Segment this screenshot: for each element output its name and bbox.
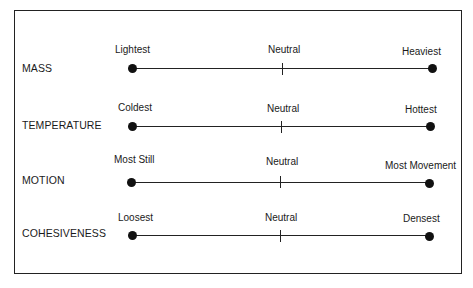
scale-line bbox=[133, 235, 433, 236]
left-end-label: Most Still bbox=[114, 154, 155, 165]
left-end-label: Coldest bbox=[118, 102, 152, 113]
right-endpoint-dot bbox=[425, 232, 434, 241]
scale-label: TEMPERATURE bbox=[22, 119, 102, 131]
right-endpoint-dot bbox=[428, 64, 437, 73]
left-endpoint-dot bbox=[128, 231, 137, 240]
scale-line bbox=[133, 126, 433, 127]
left-end-label: Loosest bbox=[118, 212, 153, 223]
left-endpoint-dot bbox=[128, 64, 137, 73]
neutral-tick bbox=[280, 230, 281, 242]
right-end-label: Hottest bbox=[405, 104, 437, 115]
scale-label: MASS bbox=[22, 62, 52, 74]
middle-label: Neutral bbox=[266, 156, 298, 167]
right-end-label: Heaviest bbox=[402, 46, 441, 57]
scale-label: COHESIVENESS bbox=[22, 227, 106, 239]
left-end-label: Lightest bbox=[115, 44, 150, 55]
right-endpoint-dot bbox=[425, 179, 434, 188]
neutral-tick bbox=[280, 176, 281, 188]
neutral-tick bbox=[282, 63, 283, 75]
scale-line bbox=[133, 68, 433, 69]
middle-label: Neutral bbox=[265, 212, 297, 223]
right-endpoint-dot bbox=[426, 122, 435, 131]
middle-label: Neutral bbox=[268, 44, 300, 55]
scale-label: MOTION bbox=[22, 174, 65, 186]
neutral-tick bbox=[281, 121, 282, 133]
right-end-label: Most Movement bbox=[385, 160, 456, 171]
scale-line bbox=[133, 182, 433, 183]
middle-label: Neutral bbox=[267, 103, 299, 114]
right-end-label: Densest bbox=[403, 213, 440, 224]
left-endpoint-dot bbox=[127, 178, 136, 187]
left-endpoint-dot bbox=[128, 122, 137, 131]
